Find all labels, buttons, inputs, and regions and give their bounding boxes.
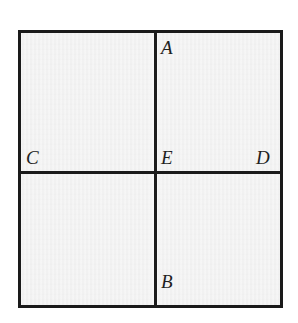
outer-square [18, 30, 283, 308]
paper-texture-overlay [21, 33, 280, 305]
vertical-divider-line [154, 30, 157, 308]
vertex-label-c: C [26, 148, 39, 167]
geometry-figure: A C E D B [0, 0, 298, 323]
horizontal-divider-line [18, 171, 283, 174]
vertex-label-a: A [161, 38, 173, 57]
vertex-label-d: D [256, 148, 270, 167]
vertex-label-e: E [161, 148, 173, 167]
vertex-label-b: B [161, 272, 173, 291]
